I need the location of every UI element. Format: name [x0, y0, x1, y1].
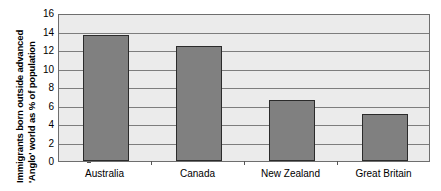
bar-slot — [152, 15, 245, 161]
bar-slot — [59, 15, 152, 161]
x-axis-label-canada: Canada — [180, 168, 215, 179]
y-axis-title-line-1: Immigrants born outside advanced — [14, 30, 25, 183]
bars-layer — [59, 15, 429, 161]
y-tick-label: 14 — [32, 28, 54, 38]
y-tick-label: 16 — [32, 9, 54, 19]
y-tick-label: 0 — [32, 157, 54, 167]
x-axis-label-australia: Australia — [85, 168, 124, 179]
y-axis-ticks: 0246810121416 — [32, 14, 54, 162]
x-tick-mark — [244, 161, 245, 165]
bar[interactable] — [83, 35, 129, 161]
bar-chart: Immigrants born outside advanced 'Anglo'… — [0, 0, 441, 191]
y-tick-label: 4 — [32, 120, 54, 130]
plot-area — [58, 14, 430, 162]
bar[interactable] — [362, 114, 408, 161]
x-axis-categories: AustraliaCanadaNew ZealandGreat Britain — [58, 161, 430, 191]
bar[interactable] — [269, 100, 315, 161]
bar[interactable] — [176, 46, 222, 161]
bar-slot — [245, 15, 338, 161]
y-tick-label: 8 — [32, 83, 54, 93]
x-tick-mark — [337, 161, 338, 165]
x-axis-label-new-zealand: New Zealand — [261, 168, 320, 179]
y-tick-label: 6 — [32, 102, 54, 112]
y-tick-label: 12 — [32, 46, 54, 56]
y-tick-label: 10 — [32, 65, 54, 75]
x-axis-label-great-britain: Great Britain — [355, 168, 411, 179]
bar-slot — [338, 15, 431, 161]
x-tick-mark — [151, 161, 152, 165]
y-tick-label: 2 — [32, 139, 54, 149]
